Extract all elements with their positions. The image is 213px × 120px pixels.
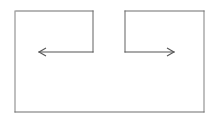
line-diagram [0,0,213,120]
figure-container [0,0,213,120]
